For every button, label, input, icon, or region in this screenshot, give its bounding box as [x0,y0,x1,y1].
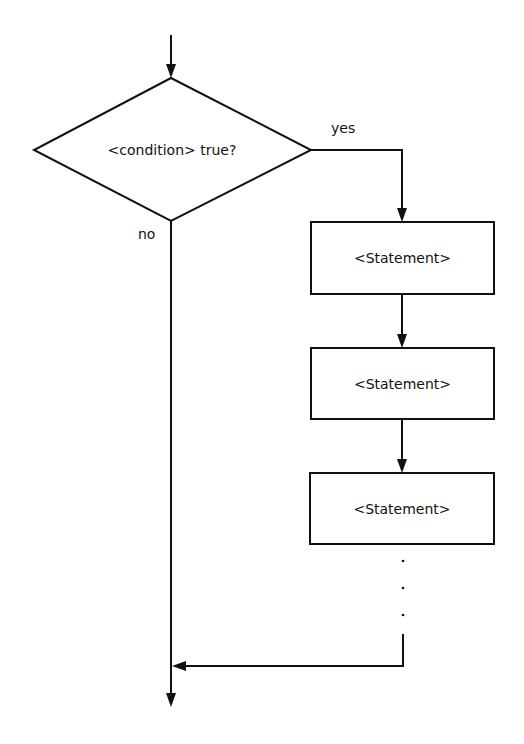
yes-connector [311,150,407,222]
continuation-dots [402,560,405,617]
decision-label: <condition> true? [108,142,237,158]
yes-label: yes [331,120,355,136]
statement-label-1: <Statement> [354,250,451,266]
no-connector [166,221,176,707]
entry-arrow [166,35,176,78]
return-connector [172,634,403,671]
statement-box-3: <Statement> [309,472,495,545]
statement-box-2: <Statement> [310,347,495,420]
statement-label-3: <Statement> [353,501,450,517]
statement-box-1: <Statement> [310,221,495,295]
connector-1-2 [397,294,407,348]
connector-2-3 [397,419,407,473]
no-label: no [138,226,155,242]
statement-label-2: <Statement> [354,376,451,392]
